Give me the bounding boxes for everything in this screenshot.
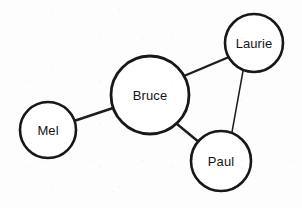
node-mel-label: Mel <box>37 123 58 138</box>
node-paul[interactable]: Paul <box>191 131 251 191</box>
node-group: Mel Bruce Laurie Paul <box>20 14 283 191</box>
node-laurie-label: Laurie <box>236 36 273 51</box>
node-bruce-label: Bruce <box>133 88 167 103</box>
node-mel[interactable]: Mel <box>20 102 76 158</box>
edge-bruce-paul[interactable] <box>177 124 200 143</box>
node-bruce[interactable]: Bruce <box>111 56 189 134</box>
node-paul-label: Paul <box>208 154 234 169</box>
edge-mel-bruce[interactable] <box>74 108 113 121</box>
network-graph: Mel Bruce Laurie Paul <box>0 0 302 208</box>
node-laurie[interactable]: Laurie <box>225 14 283 72</box>
edge-laurie-paul[interactable] <box>232 71 243 132</box>
edge-bruce-laurie[interactable] <box>184 57 229 76</box>
graph-canvas: Mel Bruce Laurie Paul <box>0 0 302 208</box>
